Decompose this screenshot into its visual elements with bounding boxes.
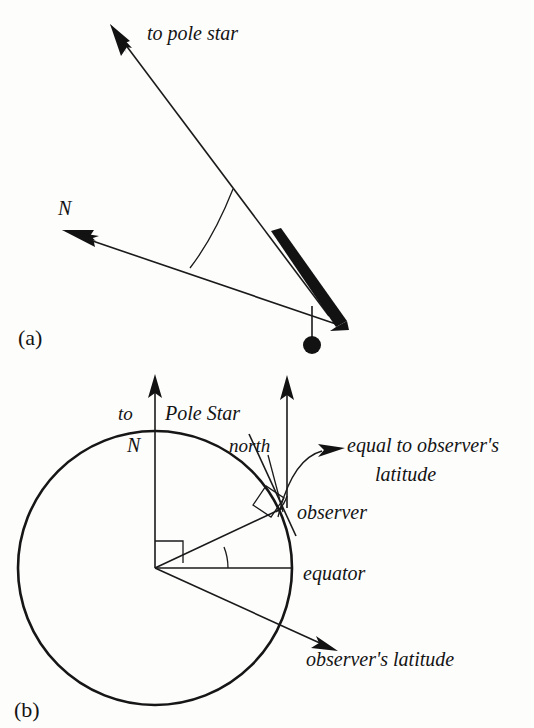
panel-a-tag: (a): [18, 325, 42, 350]
label-north-n: N: [57, 197, 73, 219]
pole-star-ray-line: [122, 40, 329, 316]
label-to: to: [118, 403, 133, 424]
figure-root: to pole star N (a): [0, 0, 534, 728]
label-equator: equator: [303, 562, 365, 585]
label-north: north: [229, 435, 270, 456]
label-pole-star: Pole Star: [164, 402, 240, 424]
label-to-pole-star: to pole star: [147, 22, 238, 45]
label-equal-latitude-line1: equal to observer's: [347, 434, 499, 457]
panel-b-tag: (b): [14, 697, 40, 722]
label-observer: observer: [297, 501, 367, 523]
astronomy-latitude-figure: to pole star N (a): [0, 0, 534, 728]
label-equal-latitude-line2: latitude: [375, 463, 436, 485]
pole-star-ray-arrow: [110, 24, 329, 316]
latitude-ray-line: [155, 568, 322, 644]
observer-radius-line: [155, 508, 283, 568]
gnomon-wedge: [271, 228, 347, 327]
label-north-pole-n: N: [126, 434, 142, 456]
plumb-bob: [303, 336, 321, 354]
center-latitude-arc: [224, 547, 228, 568]
panel-b: to Pole Star N north equal to observer's…: [14, 374, 499, 722]
north-ray-arrow: [62, 230, 336, 324]
panel-a: to pole star N (a): [18, 22, 349, 354]
curved-callout-arrowhead: [318, 444, 345, 457]
center-right-angle-marker: [155, 541, 183, 563]
label-observers-latitude: observer's latitude: [306, 648, 454, 670]
north-ray-line: [78, 236, 336, 324]
polar-axis-arrow: [148, 374, 162, 568]
panel-a-angle-arc: [190, 189, 233, 268]
